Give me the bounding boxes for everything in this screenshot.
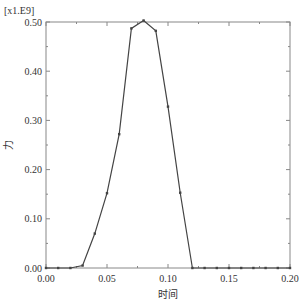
- y-tick-label: 0.20: [25, 164, 43, 175]
- data-point: [179, 192, 181, 194]
- data-point: [57, 267, 59, 269]
- data-point: [94, 232, 96, 234]
- x-tick-label: 0.05: [98, 273, 116, 284]
- plot-frame: [46, 22, 290, 268]
- x-axis-title: 时间: [158, 288, 178, 300]
- y-tick-label: 0.30: [25, 115, 43, 126]
- data-point: [45, 267, 47, 269]
- data-point: [167, 105, 169, 107]
- data-point: [106, 192, 108, 194]
- data-point: [191, 267, 193, 269]
- data-point: [203, 267, 205, 269]
- data-point: [277, 267, 279, 269]
- data-point: [240, 267, 242, 269]
- y-axis-title: 力: [2, 140, 14, 150]
- y-multiplier-label: [x1.E9]: [4, 5, 34, 16]
- series-line: [46, 21, 290, 268]
- data-point: [81, 264, 83, 266]
- data-point: [216, 267, 218, 269]
- data-point: [69, 267, 71, 269]
- data-point: [228, 267, 230, 269]
- x-tick-label: 0.10: [159, 273, 177, 284]
- force-time-chart: [x1.E9] 0.000.050.100.150.200.000.100.20…: [0, 0, 302, 305]
- y-tick-label: 0.50: [25, 17, 43, 28]
- y-tick-label: 0.00: [25, 263, 43, 274]
- data-point: [264, 267, 266, 269]
- data-point: [289, 267, 291, 269]
- data-point: [130, 27, 132, 29]
- data-point: [155, 30, 157, 32]
- x-tick-label: 0.00: [37, 273, 55, 284]
- y-tick-label: 0.10: [25, 213, 43, 224]
- x-tick-label: 0.15: [220, 273, 238, 284]
- data-point: [118, 133, 120, 135]
- x-tick-label: 0.20: [281, 273, 299, 284]
- y-tick-label: 0.40: [25, 66, 43, 77]
- data-point: [252, 267, 254, 269]
- data-point: [142, 19, 144, 21]
